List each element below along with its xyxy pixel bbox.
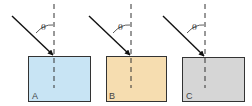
panel-b: θ B xyxy=(89,4,167,102)
panel-c: θ C xyxy=(163,4,245,102)
incident-ray-b xyxy=(89,16,130,55)
theta-label-b: θ xyxy=(118,23,123,32)
block-label-a: A xyxy=(32,91,38,101)
theta-label-a: θ xyxy=(41,23,46,32)
block-label-b: B xyxy=(109,91,115,101)
block-label-c: C xyxy=(186,91,193,101)
incident-ray-a xyxy=(12,16,53,55)
refraction-diagram: θ A θ B θ C xyxy=(0,0,252,106)
panel-a: θ A xyxy=(12,4,91,102)
medium-block-b xyxy=(107,57,167,102)
theta-label-c: θ xyxy=(192,23,197,32)
incident-ray-c xyxy=(163,16,204,56)
